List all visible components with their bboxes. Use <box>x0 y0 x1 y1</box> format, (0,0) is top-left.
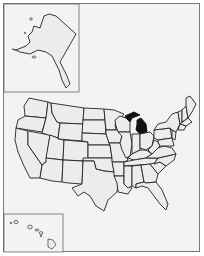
state-maine <box>186 96 196 118</box>
state-arkansas <box>112 162 124 176</box>
state-new-mexico <box>62 160 83 184</box>
state-wyoming <box>58 123 83 141</box>
state-florida <box>136 182 168 210</box>
state-kansas <box>88 145 112 158</box>
us-map <box>0 0 204 256</box>
state-north-dakota <box>83 108 105 120</box>
state-south-dakota <box>82 120 106 134</box>
contiguous-us <box>15 96 196 211</box>
state-montana <box>51 103 84 124</box>
state-washington <box>24 98 48 118</box>
state-mississippi <box>124 166 132 188</box>
